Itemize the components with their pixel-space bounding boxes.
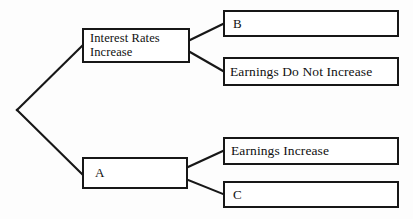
edge-interest-rates-to-b bbox=[190, 24, 223, 40]
edge-root-to-a bbox=[17, 110, 82, 174]
node-interest-rates-increase[interactable]: Interest Rates Increase bbox=[82, 28, 190, 63]
node-earnings-increase[interactable]: Earnings Increase bbox=[223, 137, 399, 165]
edge-root-to-interest-rates bbox=[17, 46, 82, 110]
node-label: Earnings Do Not Increase bbox=[225, 65, 372, 79]
edge-a-to-c bbox=[188, 180, 223, 194]
node-label: B bbox=[225, 17, 242, 31]
node-label: A bbox=[84, 166, 105, 180]
edge-a-to-earnings-increase bbox=[188, 151, 223, 167]
node-label: Interest Rates Increase bbox=[84, 32, 160, 59]
node-b[interactable]: B bbox=[223, 10, 399, 37]
node-label: C bbox=[225, 188, 242, 202]
edge-interest-rates-to-earnings-do-not-increase bbox=[190, 52, 223, 71]
diagram-canvas: Interest Rates Increase A B Earnings Do … bbox=[0, 0, 413, 219]
node-c[interactable]: C bbox=[223, 181, 399, 208]
node-a[interactable]: A bbox=[82, 157, 188, 189]
node-label: Earnings Increase bbox=[225, 144, 329, 158]
node-earnings-do-not-increase[interactable]: Earnings Do Not Increase bbox=[223, 57, 399, 86]
